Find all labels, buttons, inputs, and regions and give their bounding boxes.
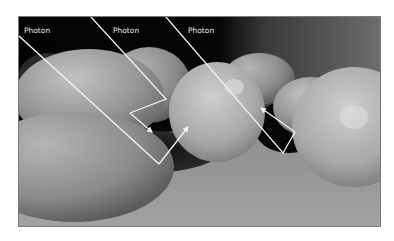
orange-right-highlight: [340, 105, 368, 129]
photon-diagram-figure: Photon Photon Photon: [18, 16, 381, 227]
photon-label-3: Photon: [188, 26, 214, 35]
photon-label-2: Photon: [113, 26, 139, 35]
scene-svg: Photon Photon Photon: [19, 17, 381, 227]
photon-label-1: Photon: [24, 26, 50, 35]
